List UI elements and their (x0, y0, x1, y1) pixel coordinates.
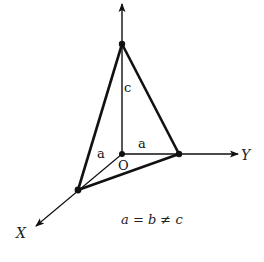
point-apex (119, 41, 125, 47)
edge-apex-to-x (78, 44, 122, 190)
label-a-y: a (138, 136, 146, 151)
edge-apex-to-y (122, 44, 179, 154)
equation-label: a = b ≠ c (121, 212, 183, 227)
label-x-axis: X (15, 225, 27, 241)
point-y (176, 151, 182, 157)
point-x (75, 187, 82, 194)
label-y-axis: Y (241, 147, 252, 163)
label-origin: O (118, 158, 129, 173)
label-a-x: a (97, 146, 105, 161)
label-c: c (124, 80, 131, 95)
point-origin (119, 151, 125, 157)
tetragonal-axes-diagram: c a a O Y X a = b ≠ c (0, 0, 264, 262)
